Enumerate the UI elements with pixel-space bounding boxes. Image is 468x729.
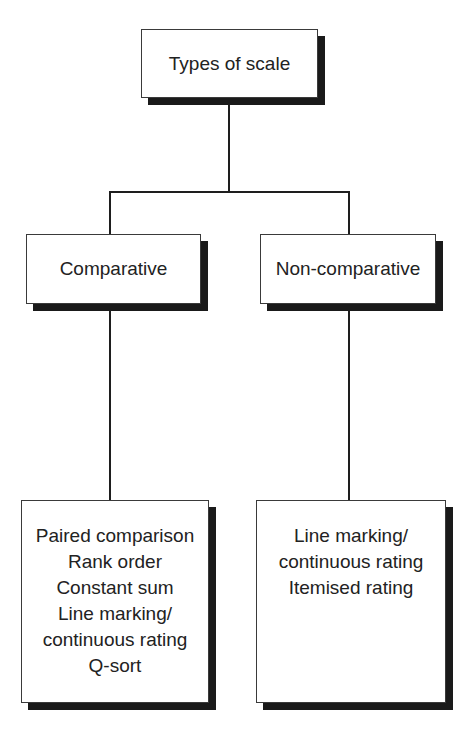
non-comparative-methods-list: Line marking/ continuous rating Itemised…: [279, 523, 424, 601]
horizontal-branch-connector: [109, 191, 350, 193]
comparative-methods-list: Paired comparison Rank order Constant su…: [36, 523, 194, 679]
list-item: Paired comparison: [36, 523, 194, 549]
root-node-label: Types of scale: [169, 52, 290, 76]
left-branch-drop-connector: [109, 191, 111, 235]
non-comparative-to-list-connector: [348, 310, 350, 501]
list-item: Rank order: [36, 549, 194, 575]
branch-node-label: Comparative: [60, 257, 168, 281]
right-branch-drop-connector: [348, 191, 350, 235]
branch-node-comparative: Comparative: [26, 234, 201, 304]
list-item: Q-sort: [36, 653, 194, 679]
branch-node-label: Non-comparative: [276, 257, 421, 281]
list-item: Itemised rating: [279, 575, 424, 601]
root-node-types-of-scale: Types of scale: [141, 29, 318, 98]
branch-node-non-comparative: Non-comparative: [260, 234, 436, 304]
list-item: Line marking/: [279, 523, 424, 549]
comparative-methods-box: Paired comparison Rank order Constant su…: [21, 500, 209, 703]
comparative-to-list-connector: [109, 310, 111, 501]
list-item: continuous rating: [36, 627, 194, 653]
list-item: continuous rating: [279, 549, 424, 575]
non-comparative-methods-box: Line marking/ continuous rating Itemised…: [256, 500, 446, 703]
clipped-caption-remnant: [18, 722, 248, 729]
root-stem-connector: [228, 104, 230, 193]
list-item: Constant sum: [36, 575, 194, 601]
list-item: Line marking/: [36, 601, 194, 627]
